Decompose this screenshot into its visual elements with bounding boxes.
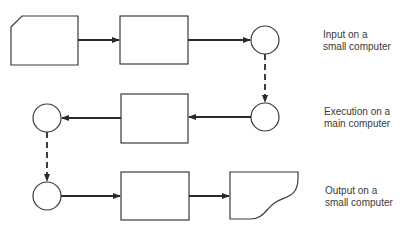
- stage-label-line: Execution on a: [324, 106, 390, 118]
- document-icon: [230, 172, 298, 219]
- connector-2: [251, 103, 279, 131]
- stage-label-line: Input on a: [323, 29, 391, 41]
- connector-1: [251, 26, 279, 54]
- stage-label-output: Output on a small computer: [325, 185, 393, 209]
- punched-card-icon: [11, 16, 78, 65]
- stage-label-input: Input on a small computer: [323, 29, 391, 53]
- process-box-input: [120, 16, 188, 64]
- stage-label-line: small computer: [325, 197, 393, 209]
- stage-label-execution: Execution on a main computer: [324, 106, 390, 130]
- connector-3: [33, 104, 61, 132]
- process-box-output: [121, 172, 189, 220]
- connector-4: [33, 182, 61, 210]
- process-box-execution: [121, 94, 188, 143]
- stage-label-line: Output on a: [325, 185, 393, 197]
- stage-label-line: small computer: [323, 41, 391, 53]
- stage-label-line: main computer: [324, 118, 390, 130]
